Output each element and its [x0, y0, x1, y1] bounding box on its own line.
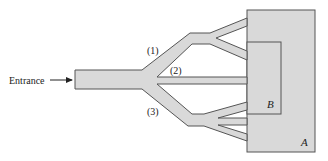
flow-diagram: Entrance (1) (2) (3) B A [0, 0, 328, 161]
region-label-a: A [300, 136, 308, 148]
branch-label-1: (1) [147, 45, 159, 57]
branch-label-2: (2) [170, 65, 182, 77]
region-label-b: B [267, 98, 274, 110]
entrance-label: Entrance [9, 75, 45, 86]
branch-label-3: (3) [147, 106, 159, 118]
region-b [247, 42, 281, 114]
channel-network [75, 18, 247, 141]
